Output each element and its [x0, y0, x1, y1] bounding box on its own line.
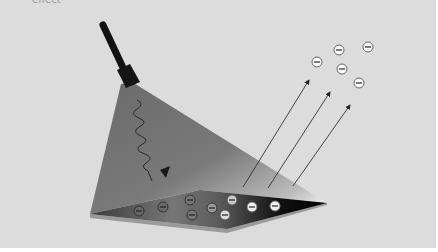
electron-icon	[185, 195, 195, 205]
emission-arrow	[293, 105, 350, 186]
electron-icon	[334, 45, 344, 55]
photoelectric-diagram	[0, 0, 438, 252]
electron-icon	[270, 201, 280, 211]
electron-icon	[312, 57, 322, 67]
electron-icon	[158, 202, 168, 212]
lamp-icon	[103, 25, 140, 88]
electron-icon	[207, 203, 217, 213]
electron-icon	[134, 206, 144, 216]
electron-icon	[337, 64, 347, 74]
diagram-canvas: effect	[0, 0, 436, 248]
emitted-electrons	[312, 42, 373, 88]
electron-icon	[227, 195, 237, 205]
electron-icon	[354, 78, 364, 88]
emission-arrow	[268, 92, 330, 188]
electron-icon	[220, 210, 230, 220]
emission-arrow	[243, 80, 309, 187]
electron-icon	[187, 210, 197, 220]
electron-icon	[363, 42, 373, 52]
electron-icon	[247, 202, 257, 212]
